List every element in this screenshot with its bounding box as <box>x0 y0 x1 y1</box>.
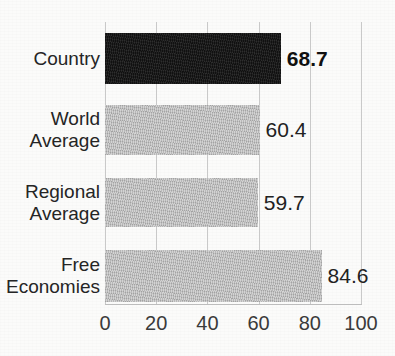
category-label-country: Country <box>0 48 100 70</box>
category-label-line: Free <box>0 254 100 276</box>
bar-world-average[interactable] <box>105 105 260 155</box>
category-label-line: World <box>0 108 100 130</box>
category-label-line: Economies <box>0 276 100 298</box>
x-tick-label-100: 100 <box>331 312 391 335</box>
category-label-free-economies: FreeEconomies <box>0 254 100 298</box>
category-label-line: Average <box>0 130 100 152</box>
chart-title-cropped <box>0 0 395 13</box>
category-label-line: Regional <box>0 181 100 203</box>
value-label-country: 68.7 <box>287 48 328 69</box>
bar-country[interactable] <box>105 33 281 84</box>
category-label-world-average: WorldAverage <box>0 108 100 152</box>
value-label-regional-average: 59.7 <box>264 192 305 213</box>
bar-regional-average[interactable] <box>105 178 258 227</box>
category-label-line: Country <box>0 48 100 70</box>
value-label-world-average: 60.4 <box>266 119 307 140</box>
bar-chart: Country68.7WorldAverage60.4RegionalAvera… <box>0 0 395 356</box>
gridline-100 <box>361 22 362 305</box>
bar-free-economies[interactable] <box>105 250 322 302</box>
category-label-regional-average: RegionalAverage <box>0 181 100 225</box>
value-label-free-economies: 84.6 <box>328 265 369 286</box>
category-label-line: Average <box>0 203 100 225</box>
x-axis-line <box>105 304 362 305</box>
